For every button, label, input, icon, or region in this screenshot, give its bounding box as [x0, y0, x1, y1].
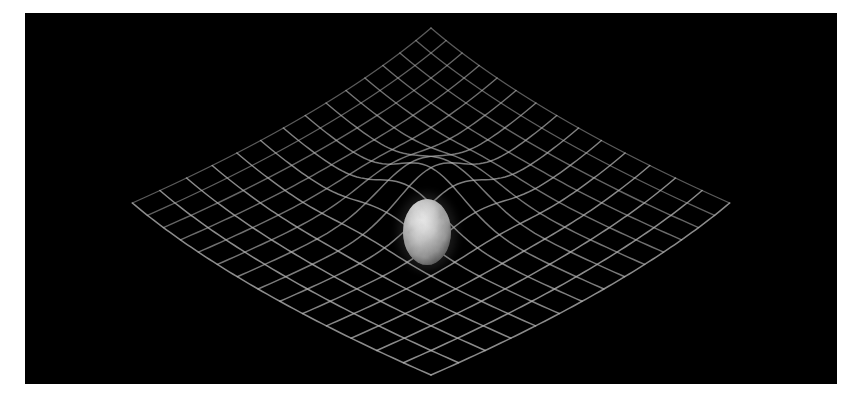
- spacetime-grid-canvas: [25, 13, 837, 384]
- planet-body-group: [397, 193, 457, 271]
- figure-root: Spacetime curvature around a planetary m…: [0, 0, 859, 406]
- spacetime-scene-panel: [25, 13, 837, 384]
- planet-terminator: [403, 199, 451, 265]
